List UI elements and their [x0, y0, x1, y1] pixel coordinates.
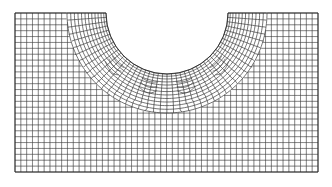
notch-refinement-ring [67, 13, 267, 113]
ring-arc [98, 13, 236, 82]
ring-spoke [227, 22, 265, 28]
ring-spoke [171, 74, 173, 113]
mesh-figure [0, 0, 332, 187]
ring-spoke [145, 73, 154, 111]
ring-spoke [68, 22, 107, 28]
ring-spoke [227, 26, 265, 34]
ring-spoke [69, 26, 108, 34]
structured-grid [15, 13, 318, 172]
ring-spoke [154, 73, 159, 112]
ring-spoke [180, 73, 189, 111]
mesh-svg [0, 0, 332, 187]
ring-arc [106, 13, 228, 74]
ring-spoke [160, 74, 163, 113]
ring-spoke [228, 17, 266, 20]
ring-spoke [67, 17, 106, 20]
ring-arc [101, 13, 233, 79]
